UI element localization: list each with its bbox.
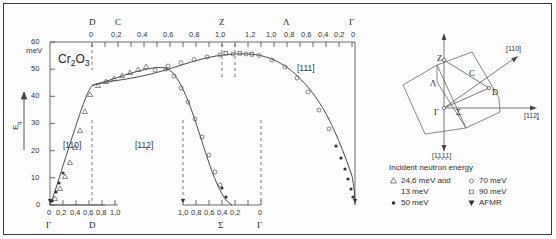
legend-item-4: 90 meV (467, 186, 537, 197)
bot-tick-08: 0,8 (96, 208, 106, 217)
legend-title: Incident neutron energy (389, 163, 537, 172)
circle-open-icon (467, 176, 476, 185)
title-cr: Cr (58, 52, 71, 66)
square-open-icon (467, 187, 476, 196)
legend-item-2: 50 meV (389, 197, 467, 208)
top-tick-r-02: 0,2 (334, 30, 344, 39)
bot-symbol-Gamma-left: Γ (46, 220, 51, 230)
bot-tick-0: 0 (47, 208, 51, 217)
bz-point-D: D (492, 87, 498, 97)
data-markers-afmr (48, 199, 357, 203)
bot-tick-r-04: 0,4 (217, 208, 227, 217)
top-symbol-D: D (89, 17, 96, 27)
top-tick-r-12: 1,2 (245, 30, 255, 39)
legend-item-1: 13 meV (389, 186, 467, 197)
y-tick-0: 0 (36, 200, 40, 209)
top-tick-06: 0,6 (163, 30, 173, 39)
bot-tick-04: 0,4 (70, 208, 80, 217)
bz-direction-111: [1̢1̢1̢1] (432, 152, 451, 159)
bz-point-Lambda: Λ (430, 78, 436, 88)
bot-tick-r-10: 1,0 (178, 208, 188, 217)
top-symbol-C: C (115, 17, 121, 27)
y-tick-20: 20 (31, 146, 39, 155)
bz-point-Sigma: Σ (456, 107, 461, 117)
y-tick-50: 50 (31, 64, 39, 73)
top-tick-08: 0,8 (189, 30, 199, 39)
data-markers-circle-filled (50, 144, 354, 202)
bz-point-Z: Z (437, 53, 442, 63)
top-tick-10: 1,0 (215, 30, 225, 39)
bz-point-C: C (469, 68, 475, 78)
legend-item-0: 24,6 meV and (389, 175, 467, 186)
energy-axis-arrow (21, 92, 26, 150)
bot-tick-r-02: 0,2 (230, 208, 240, 217)
bot-tick-06: 0,6 (83, 208, 93, 217)
top-symbol-Z: Z (219, 17, 225, 27)
top-tick-0: 0 (89, 30, 93, 39)
y-tick-10: 10 (31, 173, 39, 182)
top-tick-r-06: 0,6 (301, 30, 311, 39)
bot-tick-02: 0,2 (56, 208, 66, 217)
bot-tick-r-0: 0 (258, 208, 262, 217)
legend-label-4: 90 meV (479, 187, 507, 196)
triangle-down-filled-icon (467, 198, 476, 207)
triangle-up-open-icon (389, 176, 398, 185)
bz-direction-110: [110] (506, 45, 521, 52)
legend-label-5: AFMR (479, 198, 502, 207)
legend-label-2: 50 meV (401, 198, 429, 207)
legend: Incident neutron energy 24,6 meV and 13 … (389, 163, 537, 208)
top-tick-r-0: 0 (351, 30, 355, 39)
legend-label-1: 13 meV (401, 187, 429, 196)
bz-direction-112: [112̢] (524, 112, 539, 119)
energy-subscript: q (16, 121, 22, 124)
y-tick-60: 60 (31, 37, 39, 46)
legend-label-0: 24,6 meV and (401, 176, 451, 185)
top-tick-04: 0,4 (137, 30, 147, 39)
curve-111-descending (258, 55, 355, 204)
page-title: Cr2O3 (58, 52, 90, 68)
branch-label-110: [110] (63, 140, 81, 150)
y-tick-30: 30 (31, 118, 39, 127)
legend-item-3: 70 meV (467, 175, 537, 186)
y-tick-40: 40 (31, 91, 39, 100)
bot-tick-r-06: 0,6 (204, 208, 214, 217)
bot-symbol-Sigma: Σ (218, 220, 223, 230)
bot-symbol-Gamma-right: Γ (257, 220, 262, 230)
legend-item-5: AFMR (467, 197, 537, 208)
title-sub3: 3 (85, 58, 90, 68)
data-markers-112 (164, 67, 222, 187)
circle-filled-icon (389, 198, 398, 207)
branch-label-111: [111] (297, 63, 315, 73)
legend-label-3: 70 meV (479, 176, 507, 185)
top-tick-r-10: 1,0 (266, 30, 276, 39)
title-o: O (75, 52, 84, 66)
top-tick-r-08: 0,8 (284, 30, 294, 39)
bz-point-Gamma: Γ (434, 107, 439, 117)
bot-tick-10: 1,0 (110, 208, 120, 217)
branch-label-112: [11̢2] (135, 140, 153, 150)
bot-symbol-D: D (89, 220, 96, 230)
top-symbol-Lambda: Λ (283, 17, 290, 27)
figure-root: 60 meV 50 40 30 20 10 0 Eq Cr2O3 D C Z Λ… (0, 0, 556, 239)
top-tick-r-04: 0,4 (318, 30, 328, 39)
data-markers-triangle (52, 64, 148, 201)
energy-symbol: E (11, 125, 20, 130)
energy-axis-label: Eq (11, 121, 22, 130)
bot-tick-r-08: 0,8 (191, 208, 201, 217)
top-tick-02: 0,2 (111, 30, 121, 39)
top-symbol-Gamma: Γ (349, 17, 354, 27)
curve-112 (92, 67, 232, 205)
y-unit-label: meV (26, 46, 42, 55)
